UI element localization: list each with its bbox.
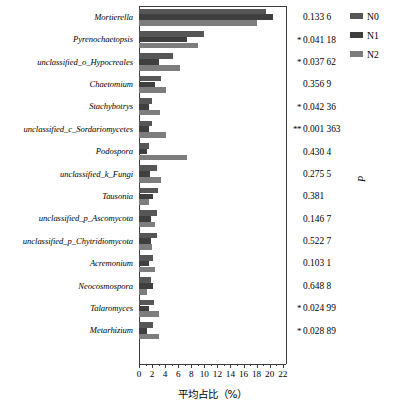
category-label: Stachybotrys [0, 96, 136, 118]
bar-n0 [139, 210, 157, 216]
x-tick [191, 364, 192, 368]
category-label: Neocosmospora [0, 275, 136, 297]
legend-item-n2: N2 [350, 46, 379, 62]
x-tick [165, 364, 166, 368]
category-label: Chaetomium [0, 73, 136, 95]
significance-stars: ** [288, 124, 303, 134]
category-label: Talaromyces [0, 297, 136, 319]
p-value-text: 0.648 8 [303, 281, 331, 291]
x-tick-minor [198, 364, 199, 366]
x-tick [257, 364, 258, 368]
plot-area: 0246810121416182022 [139, 6, 286, 364]
bar-n1 [139, 194, 153, 200]
chart-figure: MortierellaPyrenochaetopsisunclassified_… [0, 0, 396, 415]
x-tick-minor [250, 364, 251, 366]
p-value-text: 0.356 9 [303, 79, 331, 89]
x-tick [139, 364, 140, 368]
legend-swatch-icon [350, 51, 363, 57]
p-value-text: 0.430 4 [303, 147, 331, 157]
bar-n2 [139, 289, 147, 295]
x-tick-minor [276, 364, 277, 366]
category-label-column: MortierellaPyrenochaetopsisunclassified_… [0, 6, 136, 342]
p-value-text: 0.133 6 [303, 12, 331, 22]
p-value-row: *0.037 62 [288, 51, 358, 73]
bar-n0 [139, 165, 157, 171]
legend-label: N1 [367, 30, 379, 41]
bar-n1 [139, 104, 149, 110]
bar-n1 [139, 82, 155, 88]
bar-n0 [139, 277, 151, 283]
x-tick-minor [172, 364, 173, 366]
p-value-text: 0.146 7 [303, 214, 331, 224]
category-label: Tausonia [0, 185, 136, 207]
category-label: unclassified_o_Hypocreales [0, 51, 136, 73]
bar-n1 [139, 261, 149, 267]
p-value-row: 0.103 1 [288, 252, 358, 274]
category-label: unclassified_p_Chytridiomycota [0, 230, 136, 252]
bar-n0 [139, 9, 266, 15]
x-tick-minor [211, 364, 212, 366]
x-tick [230, 364, 231, 368]
bar-n1 [139, 14, 273, 20]
x-tick-minor [146, 364, 147, 366]
x-tick-label: 22 [273, 369, 293, 379]
x-tick [152, 364, 153, 368]
bar-n0 [139, 53, 173, 59]
p-value-row: 0.648 8 [288, 275, 358, 297]
p-value-row: *0.024 99 [288, 297, 358, 319]
p-value-row: *0.042 36 [288, 96, 358, 118]
x-tick [283, 364, 284, 368]
bar-n1 [139, 306, 149, 312]
p-value-text: 0.037 62 [303, 57, 336, 67]
bar-n2 [139, 267, 155, 273]
bar-n2 [139, 43, 198, 49]
significance-stars: * [288, 303, 303, 313]
x-tick [217, 364, 218, 368]
legend-label: N2 [367, 49, 379, 60]
x-tick [204, 364, 205, 368]
x-axis-title: 平均占比（%） [139, 386, 286, 401]
bar-n2 [139, 110, 160, 116]
category-label: Podospora [0, 140, 136, 162]
bar-n2 [139, 20, 257, 26]
x-tick-minor [185, 364, 186, 366]
legend-label: N0 [367, 11, 379, 22]
p-value-text: 0.275 5 [303, 169, 331, 179]
legend-swatch-icon [350, 32, 363, 38]
legend-swatch-icon [350, 13, 363, 19]
bar-n1 [139, 37, 187, 43]
bar-n1 [139, 238, 151, 244]
p-value-row: *0.028 89 [288, 319, 358, 341]
p-value-row: 0.430 4 [288, 140, 358, 162]
p-value-row: 0.356 9 [288, 73, 358, 95]
significance-stars: * [288, 102, 303, 112]
p-value-text: 0.042 36 [303, 102, 336, 112]
category-label: Mortierella [0, 6, 136, 28]
category-label: Pyrenochaetopsis [0, 28, 136, 50]
category-label: Acremonium [0, 252, 136, 274]
p-value-row: 0.146 7 [288, 208, 358, 230]
bar-n0 [139, 300, 154, 306]
bar-n2 [139, 334, 159, 340]
bar-n1 [139, 216, 151, 222]
right-axis-line [286, 6, 287, 364]
bar-n1 [139, 283, 153, 289]
p-value-text: 0.001 363 [303, 124, 341, 134]
bar-n1 [139, 126, 149, 132]
p-value-column: 0.133 6*0.041 18*0.037 620.356 9*0.042 3… [288, 6, 358, 342]
significance-stars: * [288, 326, 303, 336]
category-label: unclassified_c_Sordariomycetes [0, 118, 136, 140]
bar-n0 [139, 233, 157, 239]
p-value-row: 0.381 [288, 185, 358, 207]
p-value-row: 0.133 6 [288, 6, 358, 28]
p-value-row: *0.041 18 [288, 28, 358, 50]
x-tick-minor [224, 364, 225, 366]
p-axis-title: P [356, 176, 367, 182]
x-tick-minor [237, 364, 238, 366]
bar-n2 [139, 244, 152, 250]
bar-n2 [139, 199, 149, 205]
x-tick-minor [159, 364, 160, 366]
p-value-row: **0.001 363 [288, 118, 358, 140]
bar-n1 [139, 328, 147, 334]
bar-n0 [139, 255, 153, 261]
